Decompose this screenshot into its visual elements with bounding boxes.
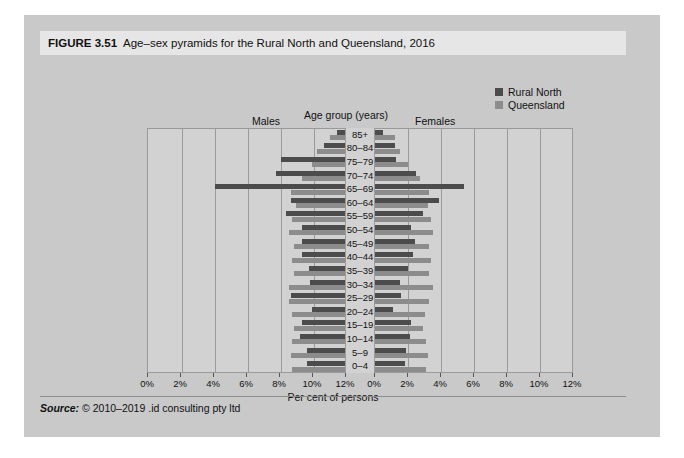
x-axis-tick <box>374 373 375 377</box>
x-axis-tick-label: 8% <box>489 378 523 389</box>
age-group-label: 10–14 <box>346 333 374 344</box>
age-group-label: 60–64 <box>346 197 374 208</box>
x-axis-tick <box>572 373 573 377</box>
age-group-label: 85+ <box>346 129 374 140</box>
figure-number: FIGURE 3.51 <box>48 37 117 49</box>
x-axis-tick-label: 6% <box>229 378 263 389</box>
x-axis-tick <box>473 373 474 377</box>
males-panel-label: Males <box>252 115 280 127</box>
x-axis-tick <box>440 373 441 377</box>
source-text: © 2010–2019 .id consulting pty ltd <box>82 402 240 414</box>
x-axis-tick-label: 2% <box>390 378 424 389</box>
females-panel-label: Females <box>415 115 455 127</box>
x-axis-tick <box>312 373 313 377</box>
x-axis-tick-label: 4% <box>423 378 457 389</box>
x-axis-tick-label: 6% <box>456 378 490 389</box>
age-group-label: 35–39 <box>346 265 374 276</box>
figure-header: FIGURE 3.51 Age–sex pyramids for the Rur… <box>40 31 626 55</box>
legend-swatch-icon <box>495 101 503 109</box>
x-axis-tick <box>180 373 181 377</box>
x-axis-tick-label: 10% <box>522 378 556 389</box>
chart-plot-area: 85+80–8475–7970–7465–6960–6455–5950–5445… <box>40 128 626 373</box>
legend-label-rural-north: Rural North <box>508 86 562 98</box>
legend-swatch-icon <box>495 88 503 96</box>
source-label: Source: <box>40 402 79 414</box>
x-axis-tick-label: 2% <box>163 378 197 389</box>
x-axis-tick <box>147 373 148 377</box>
x-axis-tick <box>213 373 214 377</box>
age-group-label: 25–29 <box>346 292 374 303</box>
figure-source: Source:© 2010–2019 .id consulting pty lt… <box>40 402 240 414</box>
age-group-label: 15–19 <box>346 319 374 330</box>
age-group-label: 65–69 <box>346 183 374 194</box>
age-group-label: 70–74 <box>346 170 374 181</box>
figure-inner: FIGURE 3.51 Age–sex pyramids for the Rur… <box>40 31 644 421</box>
x-axis-tick <box>407 373 408 377</box>
legend-item-queensland: Queensland <box>495 98 565 111</box>
age-group-label: 50–54 <box>346 224 374 235</box>
x-axis-tick <box>539 373 540 377</box>
figure-card: FIGURE 3.51 Age–sex pyramids for the Rur… <box>24 15 660 437</box>
chart-legend: Rural North Queensland <box>495 85 565 111</box>
x-axis-tick-label: 0% <box>130 378 164 389</box>
source-divider <box>40 396 626 397</box>
x-axis-tick-label: 8% <box>262 378 296 389</box>
age-group-label: 45–49 <box>346 238 374 249</box>
x-axis-tick <box>279 373 280 377</box>
age-group-label: 0–4 <box>346 360 374 371</box>
age-group-label: 5–9 <box>346 347 374 358</box>
x-axis-tick <box>506 373 507 377</box>
x-axis-tick-label: 0% <box>357 378 391 389</box>
age-group-label: 75–79 <box>346 156 374 167</box>
age-group-labels: 85+80–8475–7970–7465–6960–6455–5950–5445… <box>40 128 626 373</box>
x-axis-tick <box>345 373 346 377</box>
age-group-label: 40–44 <box>346 251 374 262</box>
age-group-label: 55–59 <box>346 210 374 221</box>
x-axis-tick-label: 10% <box>295 378 329 389</box>
legend-item-rural-north: Rural North <box>495 85 565 98</box>
age-group-axis-label: Age group (years) <box>304 109 388 121</box>
figure-title: Age–sex pyramids for the Rural North and… <box>123 37 435 49</box>
age-group-label: 20–24 <box>346 306 374 317</box>
x-axis-tick-label: 4% <box>196 378 230 389</box>
legend-label-queensland: Queensland <box>508 99 565 111</box>
x-axis-tick-label: 12% <box>555 378 589 389</box>
age-group-label: 80–84 <box>346 142 374 153</box>
age-group-label: 30–34 <box>346 279 374 290</box>
x-axis-tick <box>246 373 247 377</box>
